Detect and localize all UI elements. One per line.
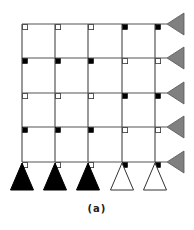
rigid-joint-marker-icon (156, 25, 161, 30)
pinned-support-triangle-icon (144, 163, 167, 190)
rigid-joint-marker-icon (156, 94, 161, 99)
lateral-support-triangle-icon (167, 116, 184, 138)
lateral-support-triangle-icon (167, 47, 184, 69)
rigid-joint-marker-icon (56, 59, 61, 64)
rigid-joint-marker-icon (123, 94, 128, 99)
hinge-joint-marker-icon (56, 94, 61, 99)
fixed-support-triangle-icon (77, 163, 100, 190)
pinned-support-triangle-icon (111, 163, 134, 190)
hinge-joint-marker-icon (56, 25, 61, 30)
hinge-joint-marker-icon (123, 59, 128, 64)
lateral-support-triangle-icon (167, 151, 184, 173)
frame-diagram (0, 0, 194, 200)
hinge-joint-marker-icon (89, 25, 94, 30)
lateral-support-triangle-icon (167, 82, 184, 104)
rigid-joint-marker-icon (23, 128, 28, 133)
fixed-support-triangle-icon (11, 163, 34, 190)
hinge-joint-marker-icon (123, 128, 128, 133)
hinge-joint-marker-icon (89, 94, 94, 99)
rigid-joint-marker-icon (123, 25, 128, 30)
rigid-joint-marker-icon (23, 59, 28, 64)
rigid-joint-marker-icon (89, 59, 94, 64)
rigid-joint-marker-icon (89, 128, 94, 133)
figure-caption: (a) (0, 203, 194, 214)
hinge-joint-marker-icon (156, 59, 161, 64)
hinge-joint-marker-icon (23, 25, 28, 30)
fixed-support-triangle-icon (44, 163, 67, 190)
lateral-support-triangle-icon (167, 13, 184, 35)
rigid-joint-marker-icon (56, 128, 61, 133)
hinge-joint-marker-icon (156, 128, 161, 133)
hinge-joint-marker-icon (23, 94, 28, 99)
